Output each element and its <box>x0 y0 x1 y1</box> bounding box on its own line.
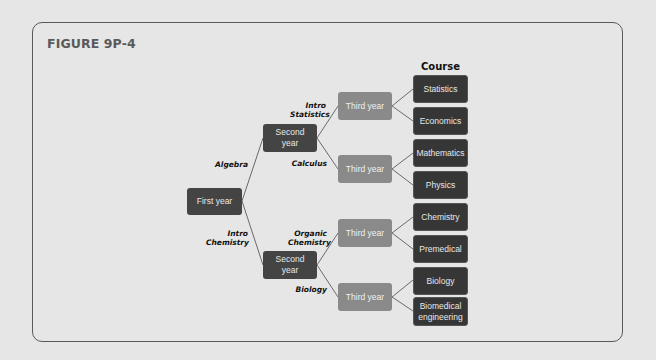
course-column-header: Course <box>413 61 468 72</box>
edge-label-intro-statistics: Intro Statistics <box>290 101 326 119</box>
node-second-year-bottom: Second year <box>263 251 317 279</box>
edge-label-organic-chemistry: Organic Chemistry <box>288 229 327 247</box>
course-premedical: Premedical <box>413 235 468 263</box>
node-third-year-1: Third year <box>338 92 392 120</box>
course-biomedical-engineering: Biomedical engineering <box>413 297 468 326</box>
edge-label-algebra: Algebra <box>200 160 248 169</box>
edge-label-calculus: Calculus <box>280 159 327 168</box>
course-physics: Physics <box>413 171 468 199</box>
node-second-year-top: Second year <box>263 124 317 152</box>
course-statistics: Statistics <box>413 75 468 103</box>
edge-label-intro-chemistry: Intro Chemistry <box>206 229 248 247</box>
node-third-year-4: Third year <box>338 283 392 311</box>
node-third-year-2: Third year <box>338 155 392 183</box>
node-third-year-3: Third year <box>338 219 392 247</box>
course-mathematics: Mathematics <box>413 139 468 167</box>
course-biology: Biology <box>413 267 468 295</box>
edge-label-biology: Biology <box>286 285 327 294</box>
course-economics: Economics <box>413 107 468 135</box>
tree-connectors <box>0 0 656 360</box>
course-chemistry: Chemistry <box>413 203 468 231</box>
node-first-year: First year <box>187 188 242 215</box>
